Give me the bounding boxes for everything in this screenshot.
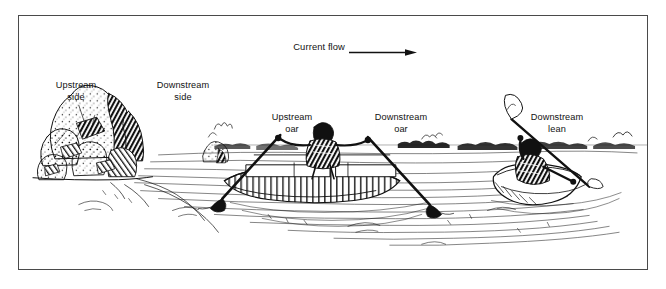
label-upstream-side: Upstream side [43, 80, 109, 103]
figure-frame: Current flow Upstream side Downstream si… [18, 15, 648, 270]
label-upstream-oar: Upstream oar [259, 112, 325, 135]
small-distant-rock [203, 123, 233, 163]
label-downstream-oar: Downstream oar [359, 112, 443, 135]
label-current-flow: Current flow [259, 41, 345, 53]
arrow-right-icon [349, 49, 417, 56]
river-scene-illustration [19, 16, 647, 269]
label-downstream-lean: Downstream lean [515, 112, 599, 135]
label-downstream-side: Downstream side [141, 80, 225, 103]
